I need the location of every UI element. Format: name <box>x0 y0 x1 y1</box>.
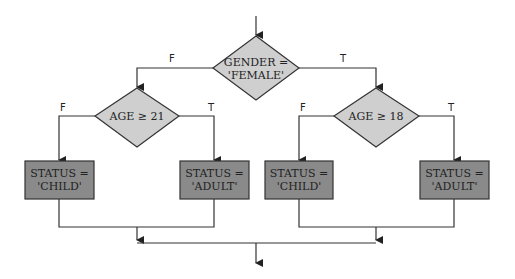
box-1-line1: STATUS = <box>30 167 88 180</box>
decision-gender: GENDER = 'FEMALE' <box>213 36 299 100</box>
branch-root-true <box>299 68 376 87</box>
label-right-true: T <box>447 102 455 113</box>
box-status-child-2: STATUS = 'CHILD' <box>265 161 333 199</box>
box-2-line1: STATUS = <box>185 167 243 180</box>
branch-right-false <box>299 116 334 160</box>
box-status-child-1: STATUS = 'CHILD' <box>25 161 94 199</box>
label-left-true: T <box>207 102 215 113</box>
box-3-line2: 'CHILD' <box>277 180 322 193</box>
label-root-true: T <box>339 53 347 64</box>
decision-age-18-text: AGE ≥ 18 <box>348 110 404 123</box>
merge-right <box>299 199 454 227</box>
box-1-line2: 'CHILD' <box>37 180 82 193</box>
box-4-line1: STATUS = <box>425 167 483 180</box>
flowchart: GENDER = 'FEMALE' F T AGE ≥ 21 F T AGE ≥… <box>0 0 515 279</box>
box-3-line1: STATUS = <box>270 167 328 180</box>
branch-left-true <box>179 116 214 160</box>
branch-left-false <box>59 116 95 160</box>
box-4-line2: 'ADULT' <box>432 180 478 193</box>
decision-age-21-text: AGE ≥ 21 <box>109 110 165 123</box>
decision-gender-line2: 'FEMALE' <box>228 69 284 82</box>
box-2-line2: 'ADULT' <box>192 180 238 193</box>
merge-left <box>59 199 214 227</box>
decision-age-21: AGE ≥ 21 <box>95 88 179 147</box>
label-left-false: F <box>60 102 66 113</box>
decision-gender-line1: GENDER = <box>224 56 288 69</box>
box-status-adult-2: STATUS = 'ADULT' <box>420 161 489 199</box>
branch-right-true <box>419 116 454 160</box>
decision-age-18: AGE ≥ 18 <box>334 88 419 147</box>
label-root-false: F <box>169 53 175 64</box>
label-right-false: F <box>300 102 306 113</box>
box-status-adult-1: STATUS = 'ADULT' <box>180 161 249 199</box>
branch-root-false <box>137 68 213 87</box>
